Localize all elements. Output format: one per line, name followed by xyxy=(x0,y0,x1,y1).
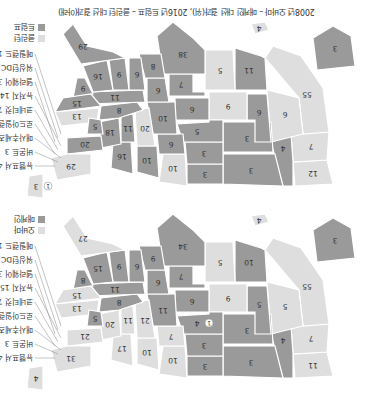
state-ev-label: 4 xyxy=(33,374,38,383)
legend-item: 오바마 xyxy=(14,225,45,236)
state-ev-label: 17 xyxy=(117,344,127,353)
state-ev-label: 11 xyxy=(244,66,254,75)
legend-item: 트럼프 xyxy=(14,22,45,33)
state-ev-label: 6 xyxy=(189,297,194,306)
state-ev-label: 11 xyxy=(123,124,133,133)
state-ev-label: 9 xyxy=(116,70,121,79)
legend-swatch xyxy=(38,35,45,42)
state-ev-label: 5 xyxy=(217,66,222,75)
state-ev-label: 3 xyxy=(33,182,38,191)
state-ev-label: 6 xyxy=(168,140,173,149)
state-ev-label: 10 xyxy=(244,258,254,267)
state-ev-label: 5 xyxy=(256,300,261,309)
state-callout-label: 델라웨어 3 xyxy=(0,269,33,280)
state-ev-label: 8 xyxy=(80,276,85,285)
rotated-figure: 1175545335109533416734107116910211711208… xyxy=(0,0,373,406)
state-ev-label: 3 xyxy=(244,134,249,143)
state-ev-label: 3 xyxy=(248,358,253,367)
state-ev-label: 20 xyxy=(140,124,150,133)
state-ev-label: 12 xyxy=(308,169,318,178)
state-ev-label: 34 xyxy=(178,242,188,251)
state-ev-label: 3 xyxy=(244,326,249,335)
legend-label: 클린턴 xyxy=(14,33,35,44)
state-callout-label: 델라웨어 3 xyxy=(0,77,33,88)
state-ev-label: 7 xyxy=(178,272,183,281)
legend-item: 매케인 xyxy=(14,214,45,225)
legend-swatch xyxy=(38,24,45,31)
state-ev-label: 11 xyxy=(158,306,168,315)
state-ev-label: 7 xyxy=(308,334,313,343)
figure-caption: 2008년 오바마 – 매케인 대선 결과(위), 2016년 트럼프 – 클린… xyxy=(0,7,373,18)
state-ev-label: 31 xyxy=(66,354,76,363)
state-ev-label: 3 xyxy=(332,236,337,245)
state-ev-label: 20 xyxy=(80,140,90,149)
state-ev-label: 3 xyxy=(201,341,206,350)
state-ev-label: 4 xyxy=(280,144,285,153)
legend-swatch xyxy=(38,227,45,234)
map-legend: 오바마매케인 xyxy=(14,214,45,236)
state-ev-label: 15 xyxy=(93,264,103,273)
state-ev-label: 21 xyxy=(140,316,150,325)
state-ev-label: 8 xyxy=(116,298,121,307)
state-ev-label: 10 xyxy=(168,164,178,173)
legend-swatch xyxy=(38,216,45,223)
state-callout-label: 코네티컷 7 xyxy=(0,297,33,308)
state-ev-label: 3 xyxy=(202,362,207,371)
state-callout-label: 매사추세츠 12 xyxy=(0,325,33,336)
map-2016: 1275546336119533567381061068102016111881… xyxy=(0,16,373,206)
state-ev-label: 21 xyxy=(80,332,90,341)
state-ev-label: 10 xyxy=(168,356,178,365)
state-ev-label: 18 xyxy=(105,128,115,137)
state-ev-label: 29 xyxy=(66,162,76,171)
callout-leader-line xyxy=(35,274,55,334)
state-ev-label: 7 xyxy=(308,142,313,151)
state-ev-label: 4 xyxy=(194,319,199,328)
state-ev-label: 8 xyxy=(116,106,121,115)
state-ev-label: 5 xyxy=(282,302,287,311)
state-ev-label: 5 xyxy=(194,127,199,136)
state-ev-label: 10 xyxy=(142,156,152,165)
state-ev-label: 4 xyxy=(256,24,261,33)
svg-text:1: 1 xyxy=(207,320,211,327)
state-ev-label: 5 xyxy=(217,258,222,267)
state-ev-label: 8 xyxy=(150,62,155,71)
state-ev-label: 7 xyxy=(178,80,183,89)
state-callout-label: 코네티컷 7 xyxy=(0,105,33,116)
state-ev-label: 6 xyxy=(155,278,160,287)
state-ev-label: 3 xyxy=(201,149,206,158)
state-ev-label: 15 xyxy=(72,291,82,300)
state-ev-label: 3 xyxy=(332,44,337,53)
state-ev-label: 6 xyxy=(155,86,160,95)
svg-text:1: 1 xyxy=(46,183,50,190)
state-ev-label: 11 xyxy=(110,285,120,294)
state-ev-label: 4 xyxy=(280,336,285,345)
state-callout-label: 버몬트 3 xyxy=(5,339,33,350)
state-ev-label: 9 xyxy=(116,262,121,271)
state-callout-label: 메릴랜드 10 xyxy=(0,241,33,252)
state-ev-label: 11 xyxy=(308,361,318,370)
state-callout-label: 뉴햄프셔 4 xyxy=(0,161,33,172)
state-callout-label: 뉴저지 15 xyxy=(0,283,33,294)
state-ev-label: 10 xyxy=(142,348,152,357)
state-callout-label: 워싱턴DC 3 xyxy=(0,255,33,266)
state-ev-label: 4 xyxy=(256,216,261,225)
state-ev-label: 15 xyxy=(72,99,82,108)
state-tx xyxy=(157,214,205,266)
map-2008: 1175545335109533416734107116910211711208… xyxy=(0,208,373,398)
state-ev-label: 5 xyxy=(92,122,97,131)
state-ev-label: 5 xyxy=(92,314,97,323)
state-ev-label: 11 xyxy=(123,316,133,325)
state-ev-label: 13 xyxy=(72,112,82,121)
state-ev-label: 16 xyxy=(117,152,127,161)
state-ev-label: 6 xyxy=(282,110,287,119)
state-ev-label: 6 xyxy=(189,105,194,114)
state-ev-label: 9 xyxy=(225,294,230,303)
state-ev-label: 9 xyxy=(150,254,155,263)
legend-item: 클린턴 xyxy=(14,33,45,44)
state-ev-label: 55 xyxy=(302,282,312,291)
state-callout-label: 매사추세츠 11 xyxy=(0,133,33,144)
state-tx xyxy=(157,22,205,74)
state-ev-label: 10 xyxy=(158,114,168,123)
state-ev-label: 20 xyxy=(105,320,115,329)
state-callout-label: 메릴랜드 10 xyxy=(0,49,33,60)
